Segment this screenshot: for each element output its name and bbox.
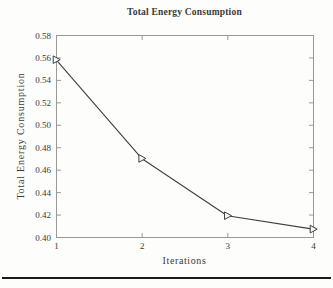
figure: Total Energy Consumption Total Energy Co… — [0, 0, 333, 288]
y-tick-label: 0.52 — [35, 98, 51, 108]
y-tick-label: 0.46 — [35, 165, 51, 175]
footer-rule — [2, 277, 331, 279]
x-tick-label: 4 — [311, 241, 316, 251]
data-line — [56, 60, 313, 229]
x-tick-label: 2 — [140, 241, 145, 251]
y-tick-label: 0.56 — [35, 53, 51, 63]
x-tick-label: 3 — [226, 241, 231, 251]
axes-frame — [57, 36, 314, 238]
plot-area: 12340.400.420.440.460.480.500.520.540.56… — [0, 0, 333, 288]
y-tick-label: 0.48 — [35, 143, 51, 153]
data-point-marker — [225, 212, 232, 220]
y-tick-label: 0.58 — [35, 31, 51, 41]
y-tick-label: 0.44 — [35, 188, 51, 198]
y-tick-label: 0.54 — [35, 75, 51, 85]
y-tick-label: 0.50 — [35, 120, 51, 130]
x-axis-label: Iterations — [56, 255, 313, 266]
y-tick-label: 0.42 — [35, 210, 51, 220]
y-tick-label: 0.40 — [35, 233, 51, 243]
x-tick-label: 1 — [54, 241, 59, 251]
